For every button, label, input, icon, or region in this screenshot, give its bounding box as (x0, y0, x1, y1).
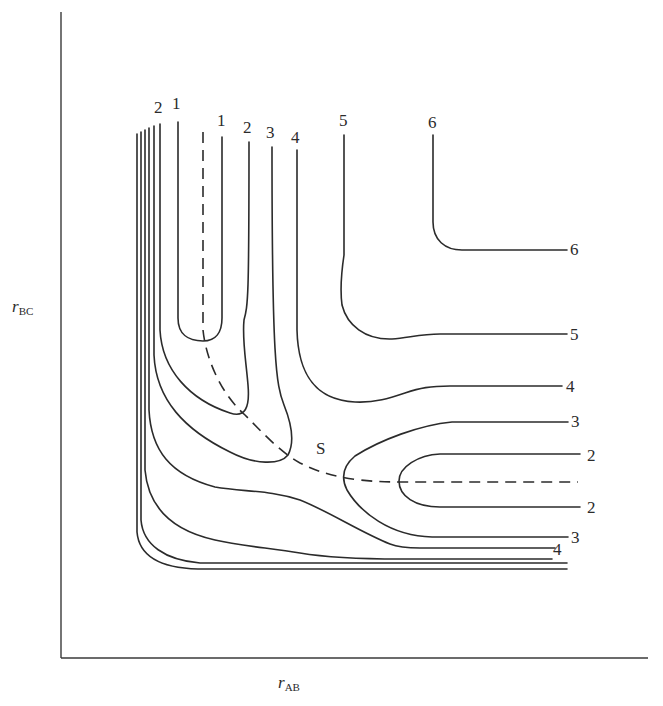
contour-label-top-1: 1 (172, 94, 181, 113)
contour-line-level-4 (149, 128, 555, 548)
x-axis-label-sub: AB (285, 681, 300, 693)
x-axis-label: rAB (278, 673, 300, 693)
contour-label-right-3: 3 (571, 528, 580, 547)
contour-label-right-2: 2 (587, 498, 596, 517)
contour-label-right-3: 3 (571, 412, 580, 431)
contour-label-right-6: 6 (570, 240, 579, 259)
contour-label-top-1: 1 (217, 111, 226, 130)
contour-line (137, 134, 567, 569)
contour-line-level-6 (433, 135, 567, 250)
contour-label-right-4: 4 (553, 540, 562, 559)
contour-label-right-2: 2 (587, 446, 596, 465)
contour-line-level-4 (297, 150, 562, 402)
contour-line-level-5 (341, 135, 567, 339)
top-contour-labels: 21123456 (154, 94, 437, 147)
contour-line-level-3 (154, 126, 292, 462)
contour-line-level-3 (344, 422, 568, 537)
contour-line-level-2 (160, 124, 249, 414)
saddle-point-label: S (316, 439, 325, 458)
contour-label-top-3: 3 (266, 123, 275, 142)
reaction-path-dashed (203, 132, 578, 482)
contour-label-top-6: 6 (428, 113, 437, 132)
contour-label-top-2: 2 (243, 118, 252, 137)
contour-label-right-4: 4 (566, 377, 575, 396)
contour-label-right-5: 5 (570, 325, 579, 344)
y-axis-label-sub: BC (19, 305, 34, 317)
contour-line (141, 132, 567, 563)
contour-label-top-4: 4 (291, 128, 300, 147)
contour-line (145, 130, 552, 559)
contour-line-level-1 (178, 122, 222, 341)
right-contour-labels: 65432234 (553, 240, 596, 559)
contour-label-top-2: 2 (154, 98, 163, 117)
contour-diagram: rBC rAB S 21123456 65432234 (0, 0, 663, 706)
contour-line-level-2 (399, 454, 580, 507)
contour-label-top-5: 5 (339, 111, 348, 130)
y-axis-label: rBC (12, 297, 33, 317)
